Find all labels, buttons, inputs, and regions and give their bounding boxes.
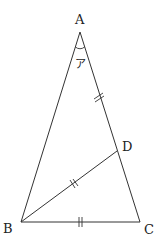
segment-bd [21, 151, 117, 222]
tick-marks-ad [94, 93, 104, 102]
segment-ab [21, 32, 80, 222]
vertex-label-c: C [144, 222, 154, 237]
angle-arc-a [75, 47, 84, 49]
vertex-label-d: D [122, 139, 132, 154]
segment-ac [80, 32, 140, 222]
vertex-label-b: B [3, 221, 13, 236]
triangle-diagram: A B C D ア [0, 0, 164, 241]
angle-label-a: ア [75, 58, 86, 71]
vertex-label-a: A [74, 12, 85, 27]
